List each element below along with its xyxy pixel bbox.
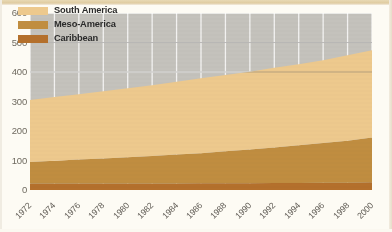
y-tick-label: 0 xyxy=(0,185,27,195)
x-tick-label: 1978 xyxy=(86,200,106,220)
x-axis: 1972197419761978198019821984198619881990… xyxy=(30,191,372,232)
caribbean-swatch xyxy=(18,35,48,43)
x-tick-label: 1986 xyxy=(184,200,204,220)
x-tick-label: 1988 xyxy=(208,200,228,220)
legend-item: South America xyxy=(18,5,117,16)
x-tick-label: 1984 xyxy=(160,200,180,220)
chart-figure: 0100200300400500600 South AmericaMeso-Am… xyxy=(0,0,392,232)
x-tick-label: 1982 xyxy=(135,200,155,220)
x-tick-label: 1980 xyxy=(111,200,131,220)
south-america-swatch xyxy=(18,7,48,15)
legend-item-label: Meso-America xyxy=(54,20,116,29)
chart-legend: South AmericaMeso-AmericaCaribbean xyxy=(18,5,117,44)
legend-item: Caribbean xyxy=(18,33,117,44)
x-tick-label: 1996 xyxy=(306,200,326,220)
y-tick-label: 300 xyxy=(0,97,27,107)
y-tick-label: 400 xyxy=(0,67,27,77)
x-tick-label: 1994 xyxy=(282,200,302,220)
x-tick-label: 1998 xyxy=(331,200,351,220)
meso-america-swatch xyxy=(18,21,48,29)
y-tick-label: 200 xyxy=(0,126,27,136)
x-tick-label: 1990 xyxy=(233,200,253,220)
x-tick-label: 1992 xyxy=(257,200,277,220)
x-tick-label: 1974 xyxy=(37,200,57,220)
x-tick-label: 1976 xyxy=(62,200,82,220)
y-tick-label: 100 xyxy=(0,156,27,166)
legend-item-label: Caribbean xyxy=(54,34,98,43)
x-tick-label: 2000 xyxy=(355,200,375,220)
legend-item-label: South America xyxy=(54,6,117,15)
legend-item: Meso-America xyxy=(18,19,117,30)
